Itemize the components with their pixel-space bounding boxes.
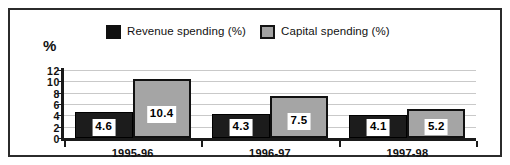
legend-item-capital: Capital spending (%)	[260, 25, 390, 39]
y-axis-tick-mark	[58, 70, 62, 71]
y-axis-tick-mark	[58, 93, 62, 94]
x-axis-tick-mark	[476, 141, 478, 147]
y-axis-tick-labels: 024681012	[34, 70, 60, 138]
chart-legend: Revenue spending (%) Capital spending (%…	[106, 22, 390, 42]
y-axis-tick-mark	[58, 115, 62, 116]
y-axis-tick-mark	[58, 127, 62, 128]
y-axis-tick-label: 8	[38, 89, 60, 100]
bar-value-label: 4.1	[367, 119, 390, 136]
bar-value-label: 5.2	[425, 119, 448, 136]
x-axis-tick-mark	[201, 141, 203, 147]
legend-item-revenue: Revenue spending (%)	[106, 25, 246, 39]
y-axis-tick-label: 0	[38, 134, 60, 145]
bar-value-label: 4.6	[92, 119, 115, 136]
x-axis-line	[61, 138, 476, 141]
y-axis-tick-label: 2	[38, 123, 60, 134]
bar-value-label: 10.4	[147, 106, 177, 123]
x-axis-category-label: 1995-96	[112, 148, 154, 159]
gray-square-icon	[260, 25, 275, 39]
y-axis-tick-mark	[58, 81, 62, 82]
x-axis-tick-mark	[64, 141, 66, 147]
gridline	[64, 81, 476, 82]
legend-label-revenue: Revenue spending (%)	[127, 26, 246, 38]
black-square-icon	[106, 25, 121, 39]
x-axis-category-label: 1997-98	[386, 148, 428, 159]
bar-value-label: 7.5	[288, 113, 311, 130]
y-axis-title: %	[43, 38, 56, 53]
gridline	[64, 93, 476, 94]
y-axis-tick-mark	[58, 138, 62, 139]
bar-value-label: 4.3	[230, 119, 253, 136]
x-axis-category-label: 1996-97	[249, 148, 291, 159]
legend-label-capital: Capital spending (%)	[281, 26, 390, 38]
gridline	[64, 70, 476, 71]
x-axis-tick-mark	[339, 141, 341, 147]
y-axis-tick-label: 6	[38, 100, 60, 111]
y-axis-tick-label: 4	[38, 111, 60, 122]
y-axis-tick-label: 12	[38, 66, 60, 77]
bar-chart-figure: Revenue spending (%) Capital spending (%…	[0, 0, 510, 165]
y-axis-tick-mark	[58, 104, 62, 105]
chart-frame: Revenue spending (%) Capital spending (%…	[8, 8, 502, 157]
y-axis-tick-label: 10	[38, 77, 60, 88]
